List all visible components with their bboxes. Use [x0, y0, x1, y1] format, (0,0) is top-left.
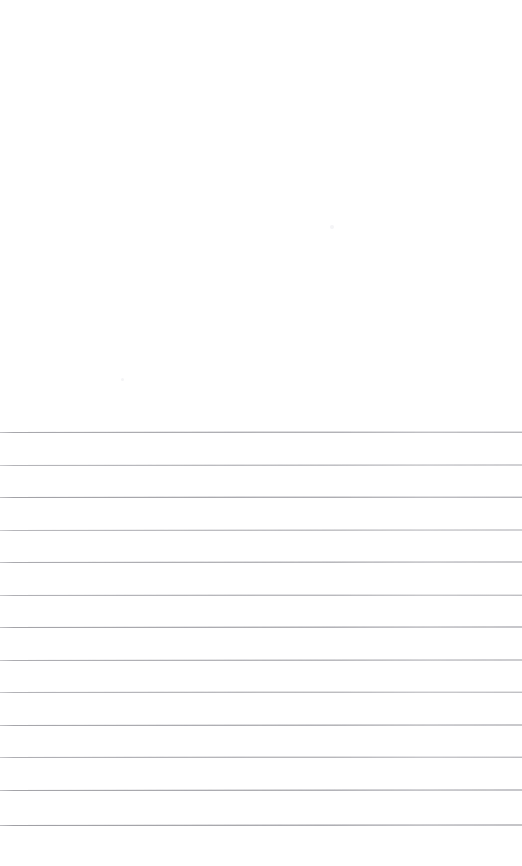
- scan-speck: [330, 225, 334, 229]
- rule-line: [0, 465, 522, 466]
- rule-line: [0, 790, 522, 791]
- rule-line: [0, 757, 522, 758]
- scanned-page: Blank Lined Notebook Page: [0, 0, 522, 866]
- rule-line: [0, 627, 522, 628]
- rule-line: [0, 595, 522, 596]
- rule-line: [0, 432, 522, 433]
- ruled-writing-area: [0, 0, 522, 866]
- rule-line: [0, 824, 522, 826]
- rule-line: [0, 497, 522, 498]
- rule-line: [0, 562, 522, 563]
- rule-line: [0, 660, 522, 661]
- rule-line: [0, 724, 522, 726]
- rule-line: [0, 529, 522, 531]
- scan-speck: [121, 378, 124, 381]
- rule-line: [0, 692, 522, 693]
